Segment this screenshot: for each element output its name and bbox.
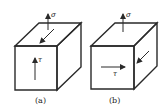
tau-label-b: τ [113, 70, 117, 78]
cube-b-right-face [134, 23, 157, 89]
cube-b-top-face [91, 23, 157, 46]
caption-a: (a) [35, 96, 46, 105]
tau-label-a: τ [38, 56, 42, 64]
shear-diagonal-arrow-icon [137, 51, 149, 63]
cube-b [91, 23, 157, 89]
shear-diagonal-arrow-icon [40, 29, 54, 43]
sigma-label-b: σ [126, 11, 131, 19]
caption-b: (b) [109, 96, 120, 105]
cube-a [15, 23, 81, 90]
stress-element-diagram: σ τ (a) σ τ (b) [0, 0, 167, 111]
cube-a-right-face [57, 23, 81, 90]
sigma-label-a: σ [51, 11, 56, 19]
cube-a-front-face [15, 46, 57, 90]
cube-b-arrows [101, 14, 149, 67]
